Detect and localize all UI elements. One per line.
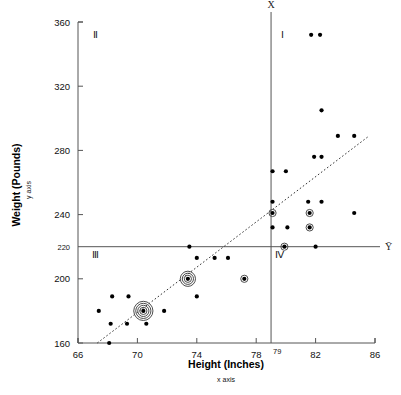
data-point [319, 155, 323, 159]
data-point-marker [319, 108, 323, 112]
data-point-marker [336, 134, 340, 138]
data-point [319, 108, 323, 112]
quadrant-label-II: Ⅱ [93, 30, 98, 40]
data-point [270, 225, 274, 229]
data-point [125, 322, 129, 326]
y-tick-label-200: 200 [54, 273, 70, 284]
y-mean-label: Ȳ [385, 241, 392, 252]
data-point [195, 294, 199, 298]
data-point-marker [126, 294, 130, 298]
data-point [306, 209, 313, 216]
x-mean-tick-label: 79 [273, 347, 281, 356]
data-point-marker [270, 169, 274, 173]
data-point [187, 245, 191, 249]
y-tick-label-240: 240 [54, 209, 70, 220]
data-point-marker [242, 277, 246, 281]
data-point [213, 256, 217, 260]
x-tick-label-66: 66 [73, 349, 84, 360]
data-point-marker [110, 294, 114, 298]
axis-spines [78, 22, 375, 343]
data-point [352, 211, 356, 215]
data-point-marker [314, 245, 318, 249]
data-point [97, 309, 101, 313]
x-mean-label: X̄ [267, 0, 275, 10]
data-point [241, 275, 248, 282]
data-point-marker [141, 309, 145, 313]
data-point-marker [144, 322, 148, 326]
data-points-group [97, 33, 357, 345]
data-point-marker [270, 200, 274, 204]
data-point [309, 33, 313, 37]
data-point-marker [285, 225, 289, 229]
data-point [134, 301, 153, 320]
data-point-marker [312, 155, 316, 159]
data-point [306, 200, 310, 204]
data-point [110, 294, 114, 298]
data-point [269, 209, 276, 216]
data-point-marker [109, 322, 113, 326]
data-point-marker [226, 256, 230, 260]
data-point [318, 33, 322, 37]
data-point [107, 341, 111, 345]
scatter-plot-figure: 36032028024022020016066707478828679 ⅠⅡⅢⅣ… [0, 0, 401, 395]
data-point-marker [306, 200, 310, 204]
data-point-marker [195, 294, 199, 298]
y-tick-label-320: 320 [54, 81, 70, 92]
y-axis-title: Weight (Pounds) [10, 143, 22, 226]
data-point-marker [318, 33, 322, 37]
quadrant-label-IV: Ⅳ [275, 250, 285, 260]
plot-canvas: 36032028024022020016066707478828679 ⅠⅡⅢⅣ… [0, 0, 401, 395]
x-tick-label-82: 82 [310, 349, 321, 360]
data-point-marker [107, 341, 111, 345]
data-point [319, 200, 323, 204]
data-point-marker [308, 225, 312, 229]
data-point-marker [195, 256, 199, 260]
quadrant-label-III: Ⅲ [92, 250, 99, 260]
data-point-marker [270, 225, 274, 229]
x-axis-subtitle: x axis [217, 376, 235, 383]
data-point-marker [319, 155, 323, 159]
mean-lines-group [78, 12, 380, 343]
data-point [336, 134, 340, 138]
data-point [144, 322, 148, 326]
labels-group: ⅠⅡⅢⅣX̄Ȳ [92, 0, 392, 260]
axes-group: 36032028024022020016066707478828679 [54, 17, 380, 361]
data-point-marker [186, 277, 190, 281]
data-point [312, 155, 316, 159]
quadrant-label-I: Ⅰ [281, 30, 284, 40]
x-axis-title: Height (Inches) [188, 358, 264, 370]
data-point-marker [352, 134, 356, 138]
data-point [126, 294, 130, 298]
data-point-marker [282, 245, 286, 249]
x-tick-label-86: 86 [370, 349, 381, 360]
data-point [352, 134, 356, 138]
data-point [314, 245, 318, 249]
data-point-marker [187, 245, 191, 249]
data-point-marker [352, 211, 356, 215]
data-point-marker [213, 256, 217, 260]
y-tick-label-160: 160 [54, 338, 70, 349]
data-point-marker [162, 309, 166, 313]
y-tick-label-360: 360 [54, 17, 70, 28]
data-point-marker [284, 169, 288, 173]
data-point [195, 256, 199, 260]
data-point [226, 256, 230, 260]
data-point-marker [319, 200, 323, 204]
data-point-marker [125, 322, 129, 326]
data-point [284, 169, 288, 173]
data-point [162, 309, 166, 313]
data-point-marker [308, 211, 312, 215]
data-point-marker [270, 211, 274, 215]
x-tick-label-70: 70 [132, 349, 143, 360]
y-tick-label-220: 220 [57, 243, 70, 252]
data-point [306, 224, 313, 231]
y-axis-subtitle: y axis [25, 181, 33, 199]
data-point [109, 322, 113, 326]
data-point-marker [97, 309, 101, 313]
data-point [285, 225, 289, 229]
data-point [270, 169, 274, 173]
data-point [270, 200, 274, 204]
y-tick-label-280: 280 [54, 145, 70, 156]
data-point-marker [309, 33, 313, 37]
data-point [180, 271, 195, 286]
